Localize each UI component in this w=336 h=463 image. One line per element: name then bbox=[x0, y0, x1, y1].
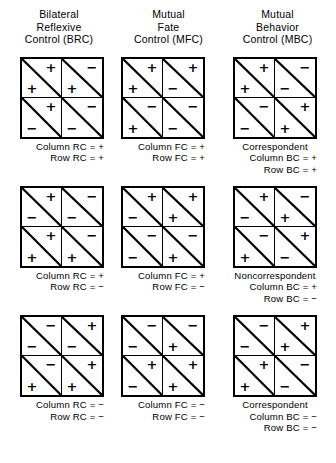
matrix-cell: ++ bbox=[22, 227, 62, 266]
matrix-caption: CorrespondentColumn BC = −Row BC = − bbox=[233, 397, 317, 433]
row-outcome-sign: + bbox=[166, 340, 180, 353]
matrix-cell: −− bbox=[62, 188, 102, 227]
matrix-grid: ++−++−−−Column RC = +Row RC = ++++−−+−−C… bbox=[0, 57, 336, 434]
column-outcome-sign: − bbox=[298, 61, 312, 74]
column-outcome-sign: + bbox=[44, 61, 58, 74]
row-outcome-sign: − bbox=[238, 122, 252, 135]
column-outcome-sign: − bbox=[298, 358, 312, 371]
matrix-block: −−+−−+++Column RC = −Row RC = − bbox=[0, 315, 118, 433]
column-outcome-sign: − bbox=[186, 100, 200, 113]
column-outcome-sign: − bbox=[44, 358, 58, 371]
matrix-block: −−−++−++Column FC = −Row FC = − bbox=[118, 315, 219, 433]
row-outcome-sign: − bbox=[65, 211, 79, 224]
row-outcome-sign: − bbox=[65, 122, 79, 135]
column-outcome-sign: + bbox=[44, 190, 58, 203]
column-outcome-sign: + bbox=[44, 100, 58, 113]
column-header-brc-line-2: Reflexive bbox=[0, 21, 118, 34]
matrix-cell: −+ bbox=[275, 188, 315, 227]
matrix-cell: ++ bbox=[123, 59, 163, 98]
row-outcome-sign: − bbox=[25, 122, 39, 135]
matrix-caption-line: Row BC = − bbox=[233, 422, 317, 433]
column-header-brc-line-1: Bilateral bbox=[0, 8, 118, 21]
matrix-wrap: −−++++−−CorrespondentColumn BC = −Row BC… bbox=[233, 315, 317, 433]
matrix-cell: −− bbox=[275, 59, 315, 98]
matrix-block: +−++−−−+Column FC = +Row FC = − bbox=[118, 186, 219, 304]
matrix-caption-line: Row RC = + bbox=[20, 152, 104, 163]
row-outcome-sign: + bbox=[238, 380, 252, 393]
row-outcome-sign: − bbox=[126, 340, 140, 353]
matrix-cell: −− bbox=[163, 98, 203, 137]
column-outcome-sign: + bbox=[85, 358, 99, 371]
matrix-caption-line: Column BC = + bbox=[233, 281, 317, 292]
column-outcome-sign: − bbox=[145, 319, 159, 332]
column-outcome-sign: − bbox=[85, 229, 99, 242]
matrix-caption-line: Row BC = + bbox=[233, 164, 317, 175]
matrix-cell: +− bbox=[123, 188, 163, 227]
column-outcome-sign: − bbox=[186, 229, 200, 242]
matrix-caption-line: Row FC = + bbox=[121, 152, 205, 163]
matrix-wrap: −−−++−++Column FC = −Row FC = − bbox=[121, 315, 205, 422]
row-outcome-sign: − bbox=[238, 211, 252, 224]
column-outcome-sign: − bbox=[257, 229, 271, 242]
matrix-row-gap bbox=[0, 304, 336, 315]
column-outcome-sign: + bbox=[145, 190, 159, 203]
matrix-cell: ++ bbox=[275, 98, 315, 137]
matrix-caption-line: Row BC = − bbox=[233, 293, 317, 304]
matrix-cell: −+ bbox=[163, 317, 203, 356]
row-outcome-sign: + bbox=[238, 251, 252, 264]
matrix-caption-title: Correspondent bbox=[217, 399, 333, 410]
matrix-cell: +− bbox=[235, 188, 275, 227]
column-outcome-sign: + bbox=[186, 61, 200, 74]
column-outcome-sign: + bbox=[186, 190, 200, 203]
matrix-block: ++−++−−−Column RC = +Row RC = + bbox=[0, 57, 118, 175]
matrix-block: +−−−++−+Column RC = +Row RC = − bbox=[0, 186, 118, 304]
row-outcome-sign: − bbox=[25, 340, 39, 353]
matrix-cell: +− bbox=[163, 59, 203, 98]
row-outcome-sign: − bbox=[126, 251, 140, 264]
column-outcome-sign: − bbox=[44, 319, 58, 332]
matrix-caption: Column RC = +Row RC = − bbox=[20, 268, 104, 293]
column-outcome-sign: + bbox=[145, 358, 159, 371]
column-outcome-sign: − bbox=[145, 100, 159, 113]
column-outcome-sign: + bbox=[257, 358, 271, 371]
matrix-row-gap bbox=[0, 175, 336, 186]
matrix-caption: NoncorrespondentColumn BC = +Row BC = − bbox=[233, 268, 317, 304]
matrix-caption-line: Column FC = − bbox=[121, 399, 205, 410]
row-outcome-sign: + bbox=[166, 380, 180, 393]
matrix-wrap: −−+−−+++Column RC = −Row RC = − bbox=[20, 315, 104, 422]
matrix-cell: +− bbox=[275, 227, 315, 266]
row-outcome-sign: + bbox=[166, 211, 180, 224]
column-outcome-sign: + bbox=[186, 358, 200, 371]
row-outcome-sign: − bbox=[126, 380, 140, 393]
matrix-cell: −− bbox=[235, 317, 275, 356]
matrix-cell: ++ bbox=[235, 356, 275, 395]
matrix-caption-line: Row FC = − bbox=[121, 411, 205, 422]
matrix-cell: ++ bbox=[275, 317, 315, 356]
matrix-block: +−−+−++−NoncorrespondentColumn BC = +Row… bbox=[219, 186, 336, 304]
column-outcome-sign: + bbox=[257, 190, 271, 203]
header-matrix-gap bbox=[0, 46, 336, 57]
row-outcome-sign: + bbox=[278, 211, 292, 224]
column-outcome-sign: + bbox=[85, 319, 99, 332]
matrix-cell: −− bbox=[22, 317, 62, 356]
column-outcome-sign: + bbox=[44, 229, 58, 242]
matrix-caption-line: Column RC = − bbox=[20, 399, 104, 410]
matrix-cell: −+ bbox=[22, 356, 62, 395]
matrix-cell: −− bbox=[123, 317, 163, 356]
outcome-matrix: −−++++−− bbox=[233, 315, 317, 397]
outcome-matrix: +++−−+−− bbox=[121, 57, 205, 139]
row-outcome-sign: + bbox=[238, 82, 252, 95]
matrix-block: ++−−−−++CorrespondentColumn BC = +Row BC… bbox=[219, 57, 336, 175]
outcome-matrix: +−++−−−+ bbox=[121, 186, 205, 268]
matrix-caption-line: Row RC = − bbox=[20, 411, 104, 422]
matrix-block: +++−−+−−Column FC = +Row FC = + bbox=[118, 57, 219, 175]
row-outcome-sign: − bbox=[278, 82, 292, 95]
matrix-wrap: +++−−+−−Column FC = +Row FC = + bbox=[121, 57, 205, 164]
matrix-caption-line: Column RC = + bbox=[20, 270, 104, 281]
matrix-cell: −− bbox=[275, 356, 315, 395]
row-outcome-sign: + bbox=[126, 122, 140, 135]
matrix-cell: −+ bbox=[62, 227, 102, 266]
matrix-block: −−++++−−CorrespondentColumn BC = −Row BC… bbox=[219, 315, 336, 433]
matrix-wrap: ++−++−−−Column RC = +Row RC = + bbox=[20, 57, 104, 164]
matrix-cell: ++ bbox=[163, 188, 203, 227]
